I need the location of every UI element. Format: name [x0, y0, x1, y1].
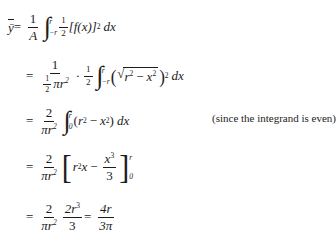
numerator: 2 — [44, 106, 55, 122]
equals-sign: = — [14, 19, 21, 35]
denominator: 2 — [84, 77, 93, 87]
exponent: 2 — [53, 167, 57, 176]
equals-sign: = — [26, 68, 33, 84]
denominator: 3 — [104, 168, 115, 183]
denominator: A — [27, 28, 39, 43]
numerator: 2r3 — [63, 202, 82, 218]
term-one-variable: x — [81, 159, 87, 175]
equation-line-1: ȳ = 1 A ∫ r −r 1 2 [f(x)]2 dx — [8, 12, 116, 42]
fraction-result-four-r-over-three-pi: 4r 3π — [97, 202, 114, 232]
close-paren: ) — [110, 113, 114, 129]
fraction-one-half: 1 2 — [59, 16, 68, 38]
differential: dx — [172, 68, 184, 84]
denominator: πr2 — [39, 218, 58, 233]
exponent: 2 — [130, 69, 134, 78]
fraction-two-over-pi-r-squared: 2 πr2 — [39, 152, 58, 182]
equals-sign: = — [26, 113, 33, 129]
evaluation-limits: r 0 — [129, 154, 133, 180]
denominator: πr2 — [39, 168, 58, 183]
equation-line-3: = 2 πr2 ∫ r 0 (r2 −x2) dx — [26, 106, 129, 136]
minus-sign: − — [90, 159, 97, 175]
equals-sign: = — [26, 159, 33, 175]
integrand-expression: [f(x)] — [69, 19, 97, 35]
integral-upper-limit: r — [49, 18, 57, 26]
open-bracket: [ — [62, 154, 72, 181]
numerator: 1 — [84, 65, 93, 76]
numerator: 1 — [43, 75, 51, 85]
numerator: 2 — [44, 202, 55, 218]
integral-symbol-group: ∫ r −r — [97, 67, 110, 86]
fraction-one-over-half-pi-r-squared: 1 1 2 πr2 — [39, 58, 70, 94]
exponent: 3 — [110, 151, 114, 160]
pi-r-term: πr — [41, 168, 53, 183]
integral-upper-limit: r — [69, 112, 73, 120]
differential: dx — [117, 113, 129, 129]
equation-line-4: = 2 πr2 [ r2x − x3 3 ] r 0 — [26, 152, 133, 182]
denominator: 3 — [67, 218, 78, 233]
denominator: 2 — [43, 85, 51, 94]
term-one-base: r — [73, 159, 78, 175]
radicand: r2−x2 — [123, 67, 158, 85]
integrand-second-term: x — [100, 113, 106, 129]
exponent: 2 — [65, 75, 69, 84]
equals-sign-second: = — [84, 209, 91, 225]
denominator: πr2 — [39, 122, 58, 137]
derivation-annotation: (since the integrand is even) — [212, 112, 336, 124]
exponent: 2 — [152, 69, 156, 78]
integral-limits: r −r — [49, 18, 57, 37]
equation-line-2: = 1 1 2 πr2 · 1 2 ∫ r −r ( √ r2−x2 — [26, 58, 184, 94]
integral-symbol-group: ∫ r 0 — [64, 112, 73, 131]
inner-fraction-one-half: 1 2 — [43, 75, 51, 95]
numerator: 4r — [98, 202, 114, 218]
differential: dx — [104, 19, 116, 35]
integral-limits: r 0 — [69, 112, 73, 131]
eval-lower-limit: 0 — [129, 173, 133, 181]
numerator: 1 — [50, 58, 61, 74]
integral-lower-limit: −r — [49, 29, 57, 37]
pi-r-term: πr — [53, 76, 65, 91]
multiplication-dot: · — [76, 68, 80, 84]
close-paren: ) — [159, 66, 165, 86]
exponent: 2 — [53, 121, 57, 130]
exponent: 2 — [53, 217, 57, 226]
eval-upper-limit: r — [129, 154, 133, 162]
integral-symbol-group: ∫ r −r — [44, 18, 57, 37]
minus-sign: − — [90, 113, 97, 129]
numerator-term: 2r — [65, 201, 77, 216]
pi-r-term: πr — [41, 122, 53, 137]
open-paren: ( — [111, 66, 117, 86]
equals-sign-first: = — [26, 209, 33, 225]
integral-lower-limit: 0 — [69, 123, 73, 131]
denominator: 2 — [59, 28, 68, 38]
minus-sign: − — [136, 69, 143, 84]
fraction-one-over-A: 1 A — [27, 12, 39, 42]
fraction-two-r-cubed-over-three: 2r3 3 — [63, 202, 82, 232]
pi-r-term: πr — [41, 218, 53, 233]
exponent: 3 — [76, 201, 80, 210]
numerator: 2 — [44, 152, 55, 168]
fraction-two-over-pi-r-squared: 2 πr2 — [39, 202, 58, 232]
y-bar-symbol: ȳ — [8, 19, 14, 36]
denominator: 1 2 πr2 — [39, 74, 70, 95]
numerator: 1 — [59, 16, 68, 27]
fraction-x-cubed-over-three: x3 3 — [103, 152, 117, 182]
integral-limits: r −r — [102, 67, 110, 86]
fraction-one-half: 1 2 — [84, 65, 93, 87]
close-bracket: ] — [119, 154, 129, 181]
integral-lower-limit: −r — [102, 78, 110, 86]
equation-line-5: = 2 πr2 2r3 3 = 4r 3π — [26, 202, 116, 232]
denominator: 3π — [97, 218, 114, 233]
numerator: 1 — [28, 12, 39, 28]
integral-upper-limit: r — [102, 67, 110, 75]
fraction-two-over-pi-r-squared: 2 πr2 — [39, 106, 58, 136]
numerator: x3 — [103, 152, 117, 168]
square-root-group: √ r2−x2 — [117, 67, 158, 85]
